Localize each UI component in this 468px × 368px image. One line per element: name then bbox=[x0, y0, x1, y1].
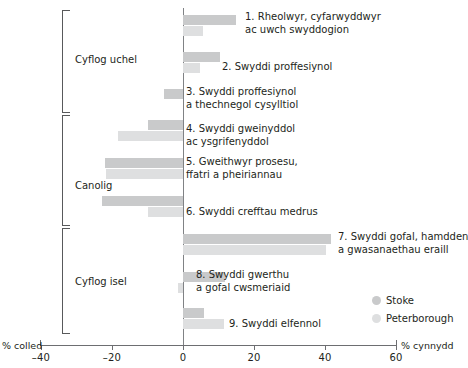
bar-stoke-3[interactable] bbox=[164, 89, 183, 99]
legend-label-peterborough: Peterborough bbox=[386, 313, 454, 324]
legend-swatch-icon-peterborough bbox=[372, 314, 381, 323]
bar-stoke-7[interactable] bbox=[183, 234, 331, 244]
x-tick-3 bbox=[254, 345, 255, 350]
x-axis-line bbox=[40, 345, 397, 346]
bar-category-label-6: 6. Swyddi crefftau medrus bbox=[186, 206, 318, 219]
x-tick-4 bbox=[325, 345, 326, 350]
bar-peterborough-8[interactable] bbox=[178, 283, 183, 293]
bar-category-label-line1: 1. Rheolwyr, cyfarwyddwyr bbox=[245, 11, 381, 24]
bar-stoke-2[interactable] bbox=[183, 52, 220, 62]
bar-category-label-1: 1. Rheolwyr, cyfarwyddwyrac uwch swyddog… bbox=[245, 11, 381, 36]
legend-label-stoke: Stoke bbox=[386, 295, 414, 306]
bar-category-label-line2: a thechnegol cysylltiol bbox=[186, 99, 298, 112]
bar-category-label-line2: a gwasanaethau eraill bbox=[338, 244, 468, 257]
bar-category-label-line1: 9. Swyddi elfennol bbox=[229, 318, 321, 331]
bar-category-label-line2: ac uwch swyddogion bbox=[245, 24, 381, 37]
bar-stoke-4[interactable] bbox=[148, 120, 183, 130]
legend-item-peterborough[interactable]: Peterborough bbox=[372, 311, 454, 326]
legend-swatch-icon-stoke bbox=[372, 296, 381, 305]
bar-peterborough-2[interactable] bbox=[183, 63, 200, 73]
bar-stoke-1[interactable] bbox=[183, 15, 236, 25]
bar-category-label-2: 2. Swyddi proffesiynol bbox=[222, 61, 332, 74]
x-axis-left-caption: % colled bbox=[2, 340, 42, 351]
x-tick-2 bbox=[183, 345, 184, 350]
x-axis-right-caption: % cynnydd bbox=[401, 340, 454, 351]
bar-category-label-9: 9. Swyddi elfennol bbox=[229, 318, 321, 331]
bar-category-label-line1: 3. Swyddi proffesiynol bbox=[186, 86, 298, 99]
group-label-cyflog-isel: Cyflog isel bbox=[75, 276, 127, 287]
group-bracket-cyflog-isel bbox=[62, 228, 70, 334]
group-label-canolig: Canolig bbox=[75, 180, 112, 191]
legend-item-stoke[interactable]: Stoke bbox=[372, 293, 454, 308]
x-tick-label-1: –20 bbox=[103, 352, 121, 363]
x-tick-label-0: –40 bbox=[32, 352, 50, 363]
bar-category-label-4: 4. Swyddi gweinyddolac ysgrifenyddol bbox=[186, 123, 295, 148]
bar-category-label-line1: 5. Gweithwyr prosesu, bbox=[186, 156, 298, 169]
bar-peterborough-7[interactable] bbox=[183, 245, 326, 255]
bar-peterborough-9[interactable] bbox=[183, 319, 224, 329]
bar-category-label-line1: 2. Swyddi proffesiynol bbox=[222, 61, 332, 74]
bar-category-label-line2: ffatri a pheiriannau bbox=[186, 169, 298, 182]
x-tick-label-5: 60 bbox=[389, 352, 402, 363]
group-bracket-canolig bbox=[62, 115, 70, 226]
bar-category-label-5: 5. Gweithwyr prosesu,ffatri a pheirianna… bbox=[186, 156, 298, 181]
x-tick-label-2: 0 bbox=[180, 352, 187, 363]
bar-peterborough-6[interactable] bbox=[148, 207, 184, 217]
bar-peterborough-4[interactable] bbox=[118, 131, 183, 141]
bar-stoke-6[interactable] bbox=[102, 196, 183, 206]
bar-stoke-9[interactable] bbox=[183, 308, 204, 318]
bar-peterborough-1[interactable] bbox=[183, 26, 203, 36]
bar-category-label-line1: 6. Swyddi crefftau medrus bbox=[186, 206, 318, 219]
bar-peterborough-5[interactable] bbox=[106, 169, 183, 179]
group-bracket-cyflog-uchel bbox=[62, 10, 70, 113]
x-tick-label-3: 20 bbox=[247, 352, 260, 363]
x-tick-1 bbox=[112, 345, 113, 350]
bar-category-label-line2: ac ysgrifenyddol bbox=[186, 136, 295, 149]
bar-category-label-line1: 7. Swyddi gofal, hamdden bbox=[338, 231, 468, 244]
group-label-cyflog-uchel: Cyflog uchel bbox=[75, 54, 137, 65]
bar-category-label-line2: a gofal cwsmeriaid bbox=[196, 282, 290, 295]
chart-legend: Stoke Peterborough bbox=[372, 293, 454, 329]
bar-category-label-8: 8. Swyddi gwerthua gofal cwsmeriaid bbox=[196, 269, 290, 294]
bar-category-label-7: 7. Swyddi gofal, hamddena gwasanaethau e… bbox=[338, 231, 468, 256]
x-tick-label-4: 40 bbox=[318, 352, 331, 363]
bar-category-label-3: 3. Swyddi proffesiynola thechnegol cysyl… bbox=[186, 86, 298, 111]
bar-category-label-line1: 4. Swyddi gweinyddol bbox=[186, 123, 295, 136]
bar-category-label-line1: 8. Swyddi gwerthu bbox=[196, 269, 290, 282]
x-tick-5 bbox=[396, 345, 397, 350]
bar-stoke-5[interactable] bbox=[105, 158, 183, 168]
